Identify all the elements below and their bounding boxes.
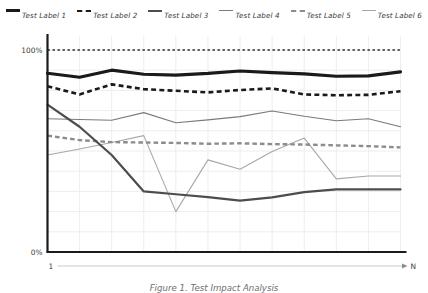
legend-swatch-icon-1: [6, 9, 20, 22]
plot-area: 100%0%1NBuilds: [0, 24, 428, 270]
legend-item-test-label-2[interactable]: Test Label 2: [77, 9, 137, 22]
series-line-test-label-2[interactable]: [48, 84, 401, 95]
legend-swatch-icon-3: [148, 10, 162, 22]
axis-label-layer: 100%0%1NBuilds: [21, 46, 416, 270]
series-line-test-label-3[interactable]: [48, 105, 401, 201]
x-axis-start-label: 1: [49, 262, 54, 270]
legend-swatch-icon-2: [77, 10, 91, 22]
legend-label-6: Test Label 6: [378, 11, 422, 20]
legend-item-test-label-1[interactable]: Test Label 1: [6, 8, 66, 22]
y-axis-tick-label-top: 100%: [21, 46, 42, 55]
series-line-test-label-1[interactable]: [48, 70, 401, 77]
legend-item-test-label-6[interactable]: Test Label 6: [362, 9, 422, 21]
legend-swatch-icon-6: [362, 10, 376, 21]
series-line-test-label-6[interactable]: [48, 136, 401, 212]
y-axis-tick-label-bottom: 0%: [31, 248, 43, 257]
series-line-test-label-4[interactable]: [48, 111, 401, 127]
legend-item-test-label-3[interactable]: Test Label 3: [148, 9, 208, 22]
chart-legend: Test Label 1 Test Label 2 Test Label 3 T…: [0, 6, 428, 24]
legend-label-5: Test Label 5: [307, 11, 351, 20]
legend-label-4: Test Label 4: [235, 11, 279, 20]
figure-caption: Figure 1. Test Impact Analysis: [0, 283, 428, 293]
legend-swatch-icon-4: [219, 10, 233, 21]
legend-label-1: Test Label 1: [22, 11, 66, 20]
legend-label-2: Test Label 2: [93, 11, 137, 20]
x-axis-direction-arrow-head: [402, 264, 408, 269]
chart-svg: 100%0%1NBuilds: [0, 24, 428, 270]
legend-item-test-label-4[interactable]: Test Label 4: [219, 9, 279, 21]
legend-swatch-icon-5: [291, 10, 305, 22]
legend-label-3: Test Label 3: [164, 11, 208, 20]
x-axis-end-label: N: [411, 262, 417, 270]
legend-item-test-label-5[interactable]: Test Label 5: [291, 9, 351, 22]
chart-figure: Test Label 1 Test Label 2 Test Label 3 T…: [0, 0, 428, 293]
